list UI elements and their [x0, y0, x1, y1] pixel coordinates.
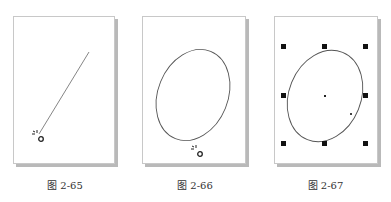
handle-middle-left — [281, 93, 286, 98]
diagonal-line-drawing — [0, 0, 130, 202]
handle-middle-right — [363, 93, 368, 98]
handle-top-left — [281, 44, 286, 49]
handle-top-right — [363, 44, 368, 49]
ellipse-tool-cursor-icon — [191, 145, 202, 156]
handle-bottom-left — [281, 141, 286, 146]
figure-caption: 图 2-67 — [260, 177, 391, 192]
handle-bottom-center — [322, 141, 327, 146]
center-marker — [324, 95, 326, 97]
ellipse-drawing — [130, 0, 260, 202]
handle-bottom-right — [363, 141, 368, 146]
ellipse-tool-cursor-icon — [32, 130, 43, 141]
handle-top-center — [322, 44, 327, 49]
figure-2-66: 图 2-66 — [130, 0, 260, 202]
figure-caption: 图 2-65 — [0, 177, 130, 192]
figure-2-67: 图 2-67 — [260, 0, 391, 202]
figure-2-65: 图 2-65 — [0, 0, 130, 202]
selected-ellipse-drawing — [260, 0, 391, 202]
node-marker — [350, 113, 352, 115]
figure-caption: 图 2-66 — [130, 177, 260, 192]
